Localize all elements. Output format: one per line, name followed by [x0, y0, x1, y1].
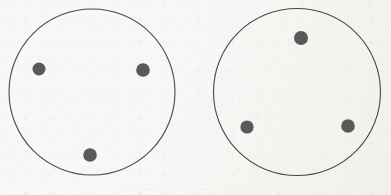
- left-dot-west-icon: [33, 63, 46, 76]
- figure-canvas: ······ ···· ····· ··· ······ ···· ······…: [0, 0, 391, 195]
- left-circle-group: [9, 9, 175, 175]
- two-circles-figure: [0, 0, 391, 195]
- right-dot-north-icon: [294, 31, 308, 45]
- right-circle-group: [214, 9, 381, 176]
- right-dot-southwest-icon: [240, 120, 253, 133]
- right-dot-southeast-icon: [341, 119, 355, 133]
- left-dot-south-icon: [83, 148, 97, 162]
- left-dot-east-icon: [136, 63, 150, 77]
